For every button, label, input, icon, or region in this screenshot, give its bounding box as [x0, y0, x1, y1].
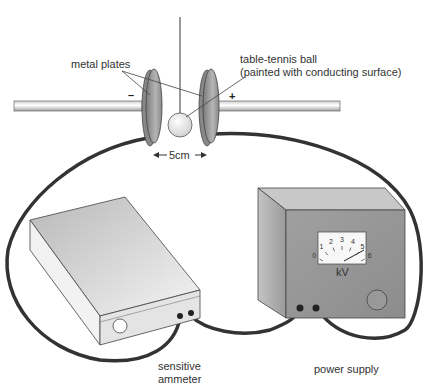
- meter-tick-label: 2: [329, 238, 333, 245]
- right-rod: [212, 101, 340, 111]
- ball-label-line2: (painted with conducting surface): [240, 66, 401, 78]
- ammeter-terminal-1: [177, 313, 183, 319]
- power-supply-knob: [367, 290, 387, 310]
- distance-label: 5cm: [169, 149, 190, 161]
- meter-tick-label: 3: [340, 236, 344, 243]
- meter-tick-label: 6: [368, 252, 372, 259]
- metal-plates-label: metal plates: [71, 58, 131, 70]
- positive-sign: +: [229, 90, 235, 102]
- meter-tick-label: 4: [351, 238, 355, 245]
- ammeter-dial: [113, 319, 127, 333]
- left-rod: [14, 101, 142, 111]
- negative-sign: –: [128, 89, 134, 101]
- power-supply-terminal-2: [313, 305, 320, 312]
- right-metal-plate: [199, 69, 219, 146]
- kv-meter: 0123456: [312, 232, 371, 264]
- ammeter-terminal-2: [188, 310, 194, 316]
- sensitive-ammeter: [30, 197, 200, 345]
- ammeter-label-line2: ammeter: [158, 373, 202, 385]
- meter-unit-label: kV: [336, 266, 350, 278]
- meter-tick-label: 0: [312, 252, 316, 259]
- meter-tick-label: 5: [361, 243, 365, 250]
- ball-label-line1: table-tennis ball: [240, 53, 317, 65]
- power-supply: 0123456 kV: [258, 188, 405, 318]
- power-supply-terminal-1: [297, 305, 304, 312]
- distance-indicator: 5cm: [153, 149, 207, 161]
- table-tennis-ball: [168, 113, 192, 137]
- experiment-diagram: metal plates table-tennis ball (painted …: [0, 0, 435, 389]
- meter-tick-label: 1: [319, 243, 323, 250]
- ammeter-label-line1: sensitive: [158, 360, 201, 372]
- power-supply-label: power supply: [314, 363, 379, 375]
